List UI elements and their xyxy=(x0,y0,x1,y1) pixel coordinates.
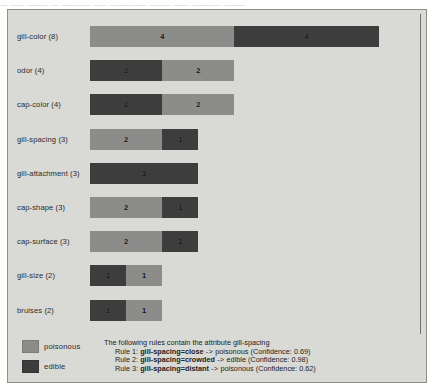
chart-row-label: gill-attachment (3) xyxy=(17,168,80,177)
chart-row-label: cap-surface (3) xyxy=(17,237,70,246)
chart-panel-background: gill-color (8)44odor (4)22cap-color (4)2… xyxy=(8,10,426,382)
chart-row: cap-shape (3)21 xyxy=(8,192,428,222)
chart-row: gill-color (8)44 xyxy=(8,21,428,51)
rules-text-block: The following rules contain the attribut… xyxy=(104,339,422,373)
bar-segment-edible[interactable]: 1 xyxy=(90,265,126,286)
legend-swatch-edible xyxy=(22,360,39,373)
chart-row: cap-surface (3)21 xyxy=(8,226,428,256)
bar-segment-edible[interactable]: 1 xyxy=(162,129,198,150)
stacked-bar-chart: gill-color (8)44odor (4)22cap-color (4)2… xyxy=(8,21,428,333)
bar-segment-value: 2 xyxy=(124,100,128,109)
bar-segment-poisonous[interactable]: 2 xyxy=(90,231,162,252)
chart-row-bar: 44 xyxy=(90,26,379,47)
bar-segment-value: 3 xyxy=(142,169,146,178)
bar-segment-value: 2 xyxy=(124,66,128,75)
chart-row-bar: 3 xyxy=(90,163,198,184)
bar-segment-edible[interactable]: 1 xyxy=(162,231,198,252)
chart-row-label: bruises (2) xyxy=(17,305,54,314)
bar-segment-value: 1 xyxy=(106,271,110,280)
attribute-rule-chart-screenshot: — —— ——— — ———— —— ————— ——— —— ———— ———… xyxy=(0,0,436,391)
legend-item-label: edible xyxy=(44,362,65,371)
bar-segment-value: 1 xyxy=(178,135,182,144)
legend-item[interactable]: poisonous xyxy=(22,338,102,354)
bar-segment-value: 4 xyxy=(305,32,309,41)
chart-legend: poisonousedible xyxy=(22,338,102,378)
bar-segment-poisonous[interactable]: 4 xyxy=(90,26,234,47)
legend-item[interactable]: edible xyxy=(22,358,102,374)
bar-segment-value: 2 xyxy=(124,237,128,246)
bar-segment-value: 1 xyxy=(142,306,146,315)
bar-segment-poisonous[interactable]: 2 xyxy=(162,60,234,81)
rule-confidence: (Confidence: 0.62) xyxy=(254,364,316,373)
bar-segment-value: 2 xyxy=(124,203,128,212)
chart-row-label: cap-shape (3) xyxy=(17,203,65,212)
chart-row-bar: 21 xyxy=(90,129,198,150)
chart-row-bar: 11 xyxy=(90,300,162,321)
chart-row-bar: 21 xyxy=(90,231,198,252)
bar-segment-value: 2 xyxy=(196,66,200,75)
chart-row-label: odor (4) xyxy=(17,66,44,75)
bar-segment-edible[interactable]: 2 xyxy=(90,94,162,115)
bar-segment-poisonous[interactable]: 1 xyxy=(126,265,162,286)
bar-segment-value: 1 xyxy=(106,306,110,315)
chart-row-bar: 11 xyxy=(90,265,162,286)
chart-row-bar: 22 xyxy=(90,60,234,81)
chart-row: cap-color (4)22 xyxy=(8,89,428,119)
bar-segment-value: 1 xyxy=(178,203,182,212)
clipped-top-caption: — —— ——— — ———— —— ————— ——— —— ———— ——— xyxy=(0,0,436,9)
bar-segment-poisonous[interactable]: 2 xyxy=(90,197,162,218)
chart-row: gill-attachment (3)3 xyxy=(8,158,428,188)
bar-segment-value: 2 xyxy=(196,100,200,109)
legend-item-label: poisonous xyxy=(44,342,80,351)
chart-row: bruises (2)11 xyxy=(8,295,428,325)
bar-segment-value: 4 xyxy=(160,32,164,41)
legend-swatch-poisonous xyxy=(22,340,39,353)
chart-row-bar: 22 xyxy=(90,94,234,115)
rule-prefix: Rule 3: xyxy=(115,364,140,373)
chart-row: gill-spacing (3)21 xyxy=(8,124,428,154)
bar-segment-edible[interactable]: 4 xyxy=(234,26,378,47)
bar-segment-poisonous[interactable]: 1 xyxy=(126,300,162,321)
chart-row-bar: 21 xyxy=(90,197,198,218)
bar-segment-value: 2 xyxy=(124,135,128,144)
rules-list: Rule 1: gill-spacing=close -> poisonous … xyxy=(104,348,422,374)
bar-segment-value: 1 xyxy=(178,237,182,246)
bar-segment-poisonous[interactable]: 2 xyxy=(162,94,234,115)
chart-row: gill-size (2)11 xyxy=(8,260,428,290)
bar-segment-edible[interactable]: 2 xyxy=(90,60,162,81)
chart-row-label: gill-color (8) xyxy=(17,32,58,41)
rule-consequent: poisonous xyxy=(220,364,253,373)
bar-segment-edible[interactable]: 3 xyxy=(90,163,198,184)
bar-segment-value: 1 xyxy=(142,271,146,280)
chart-row-label: gill-size (2) xyxy=(17,271,55,280)
rule-antecedent: gill-spacing=distant xyxy=(140,364,209,373)
bar-segment-edible[interactable]: 1 xyxy=(90,300,126,321)
chart-row: odor (4)22 xyxy=(8,55,428,85)
chart-row-label: cap-color (4) xyxy=(17,100,61,109)
rule-arrow: -> xyxy=(209,364,221,373)
bar-segment-edible[interactable]: 1 xyxy=(162,197,198,218)
chart-row-label: gill-spacing (3) xyxy=(17,134,68,143)
chart-panel: gill-color (8)44odor (4)22cap-color (4)2… xyxy=(7,9,427,383)
bar-segment-poisonous[interactable]: 2 xyxy=(90,129,162,150)
rule-line: Rule 3: gill-spacing=distant -> poisonou… xyxy=(115,365,422,374)
